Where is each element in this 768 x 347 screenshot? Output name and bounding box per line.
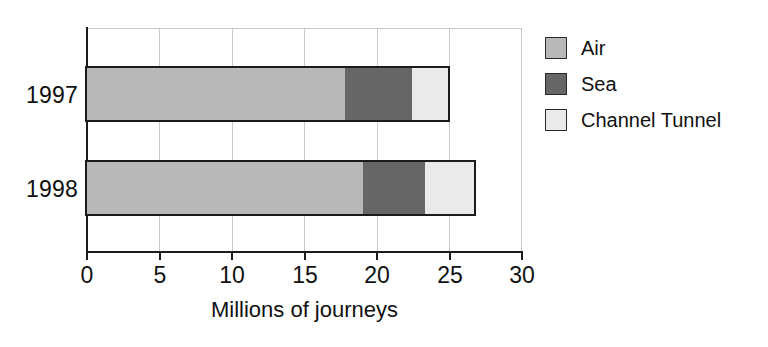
y-axis-line (86, 27, 88, 254)
x-tick-0 (86, 253, 88, 260)
x-tick-label-15: 15 (275, 262, 335, 289)
legend-label-air: Air (581, 37, 605, 60)
x-tick-label-0: 0 (57, 262, 117, 289)
legend-item-air[interactable]: Air (545, 30, 721, 66)
y-axis-label-1998: 1998 (0, 176, 78, 203)
plot-area (87, 28, 522, 252)
legend-swatch-channel-tunnel-icon (545, 109, 567, 131)
x-tick-label-30: 30 (492, 262, 552, 289)
x-tick-10 (231, 253, 233, 260)
x-axis-title: Millions of journeys (87, 297, 522, 323)
x-tick-label-25: 25 (420, 262, 480, 289)
gridline-15 (304, 28, 305, 252)
bar-segment-1998-air (87, 162, 363, 214)
x-tick-label-5: 5 (130, 262, 190, 289)
x-tick-25 (449, 253, 451, 260)
legend: Air Sea Channel Tunnel (545, 30, 721, 138)
legend-swatch-air-icon (545, 37, 567, 59)
legend-label-sea: Sea (581, 73, 617, 96)
x-tick-20 (376, 253, 378, 260)
legend-item-sea[interactable]: Sea (545, 66, 721, 102)
bar-segment-1998-sea (363, 162, 425, 214)
gridline-25 (449, 28, 450, 252)
x-tick-15 (304, 253, 306, 260)
bar-segment-1997-channel-tunnel (412, 68, 448, 120)
x-tick-label-10: 10 (202, 262, 262, 289)
x-tick-5 (159, 253, 161, 260)
gridline-5 (159, 28, 160, 252)
x-tick-30 (521, 253, 523, 260)
bar-segment-1997-air (87, 68, 345, 120)
bar-chart-figure: 1997 1998 0 5 10 15 20 25 30 Millions of… (0, 0, 768, 347)
bar-1997[interactable] (85, 66, 450, 122)
bar-segment-1998-channel-tunnel (425, 162, 474, 214)
bar-1998[interactable] (85, 160, 476, 216)
gridline-20 (377, 28, 378, 252)
legend-item-channel-tunnel[interactable]: Channel Tunnel (545, 102, 721, 138)
gridline-10 (232, 28, 233, 252)
bar-segment-1997-sea (345, 68, 412, 120)
legend-swatch-sea-icon (545, 73, 567, 95)
y-axis-label-1997: 1997 (0, 82, 78, 109)
legend-label-channel-tunnel: Channel Tunnel (581, 109, 721, 132)
gridline-30 (521, 28, 522, 252)
x-tick-label-20: 20 (347, 262, 407, 289)
